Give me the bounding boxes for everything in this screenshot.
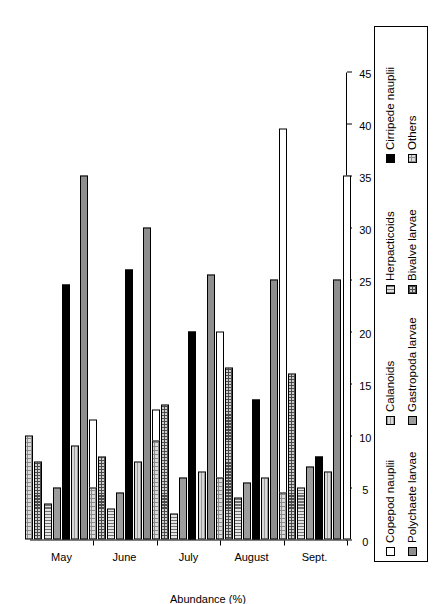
legend-swatch-icon-vert (386, 285, 395, 294)
value-tick-label-25: 25 (359, 277, 371, 288)
bar-Sept.-herpacticoids (297, 487, 305, 539)
bar-June-cirripede-nauplii (125, 269, 133, 539)
bar-Sept.-copepod-nauplii (343, 175, 351, 539)
bar-May-cirripede-nauplii (62, 284, 70, 539)
bar-July-calanoids (198, 471, 206, 539)
value-tick-label-35: 35 (359, 173, 371, 184)
value-tick-label-30: 30 (359, 225, 371, 236)
legend-swatch-icon-black (386, 154, 395, 163)
value-tick-label-45: 45 (359, 69, 371, 80)
value-tick-label-5: 5 (362, 485, 368, 496)
legend-content: Copepod naupliiCalanoidsHerpacticoidsCir… (374, 26, 428, 562)
legend-swatch-icon-gray (408, 547, 417, 556)
legend-item-herpacticoids: Herpacticoids (384, 163, 396, 294)
legend-swatch-icon-check (408, 285, 417, 294)
bar-July-others (152, 440, 160, 539)
legend-row-2: Polychaete larvaeGastropoda larvaeBivalv… (401, 32, 423, 556)
value-tick-label-40: 40 (359, 121, 371, 132)
bar-May-calanoids (71, 445, 79, 539)
legend-item-gastropoda-larvae: Gastropoda larvae (406, 294, 418, 425)
bar-Sept.-polychaete-larvae (333, 279, 341, 539)
category-tick-June (157, 540, 158, 545)
legend-label: Others (406, 115, 418, 150)
bar-group-July (157, 71, 220, 539)
legend-label: Bivalve larvae (406, 209, 418, 281)
bar-June-others (89, 487, 97, 539)
bar-August-polychaete-larvae (270, 279, 278, 539)
bar-group-August (220, 71, 283, 539)
legend-item-calanoids: Calanoids (384, 294, 396, 425)
bar-August-bivalve-larvae (225, 367, 233, 539)
bar-July-bivalve-larvae (161, 404, 169, 539)
bar-June-calanoids (134, 461, 142, 539)
bar-Sept.-cirripede-nauplii (315, 456, 323, 539)
bar-July-gastropoda-larvae (179, 477, 187, 539)
category-tick-Sept. (347, 540, 348, 545)
bar-Sept.-others (279, 492, 287, 539)
category-label-May: May (38, 552, 84, 563)
legend-swatch-icon-white (386, 547, 395, 556)
bar-August-herpacticoids (234, 497, 242, 539)
bar-Sept.-bivalve-larvae (288, 373, 296, 539)
legend-label: Gastropoda larvae (406, 317, 418, 412)
bar-group-Sept. (284, 71, 347, 539)
legend-swatch-icon-dot (408, 154, 417, 163)
legend-label: Copepod nauplii (384, 460, 396, 543)
legend-swatch-icon-medgray (408, 416, 417, 425)
value-tick-40 (347, 123, 352, 124)
plot-area: Abundance (%) 051015202530354045 MayJune… (30, 72, 347, 540)
legend-row-1: Copepod naupliiCalanoidsHerpacticoidsCir… (379, 32, 401, 556)
legend-item-polychaete-larvae: Polychaete larvae (406, 425, 418, 556)
category-label-Sept.: Sept. (292, 552, 338, 563)
category-label-July: July (165, 552, 211, 563)
legend-item-others: Others (406, 32, 418, 163)
category-label-June: June (102, 552, 148, 563)
bar-May-bivalve-larvae (34, 461, 42, 539)
bar-May-others (25, 435, 33, 539)
value-tick-label-20: 20 (359, 329, 371, 340)
legend-item-copepod-nauplii: Copepod nauplii (384, 425, 396, 556)
value-tick-label-0: 0 (362, 537, 368, 548)
bar-July-cirripede-nauplii (188, 331, 196, 539)
bar-June-polychaete-larvae (143, 227, 151, 539)
bar-August-others (216, 477, 224, 539)
category-tick-July (220, 540, 221, 545)
category-label-August: August (228, 552, 274, 563)
bar-Sept.-gastropoda-larvae (306, 466, 314, 539)
bar-June-gastropoda-larvae (116, 492, 124, 539)
bar-June-bivalve-larvae (98, 456, 106, 539)
category-tick-May (93, 540, 94, 545)
category-tick-August (284, 540, 285, 545)
legend-label: Cirripede nauplii (384, 67, 396, 150)
bar-Sept.-calanoids (324, 471, 332, 539)
bar-group-June (93, 71, 156, 539)
bar-May-polychaete-larvae (80, 175, 88, 539)
bar-May-herpacticoids (44, 503, 52, 539)
legend-swatch-icon-ltgray (386, 416, 395, 425)
bar-July-polychaete-larvae (207, 274, 215, 539)
bar-August-cirripede-nauplii (252, 399, 260, 539)
bar-August-gastropoda-larvae (243, 482, 251, 539)
bar-June-herpacticoids (107, 508, 115, 539)
bar-May-gastropoda-larvae (53, 487, 61, 539)
legend-item-cirripede-nauplii: Cirripede nauplii (384, 32, 396, 163)
value-tick-label-10: 10 (359, 433, 371, 444)
legend-label: Polychaete larvae (406, 452, 418, 543)
legend-item-bivalve-larvae: Bivalve larvae (406, 163, 418, 294)
bar-group-May (30, 71, 93, 539)
legend-label: Calanoids (384, 361, 396, 412)
legend-label: Herpacticoids (384, 211, 396, 281)
axis-title-abundance: Abundance (%) (170, 592, 246, 604)
legend-box: Copepod naupliiCalanoidsHerpacticoidsCir… (374, 26, 428, 562)
bar-August-calanoids (261, 477, 269, 539)
value-tick-label-15: 15 (359, 381, 371, 392)
bar-July-herpacticoids (170, 513, 178, 539)
value-tick-45 (347, 71, 352, 72)
